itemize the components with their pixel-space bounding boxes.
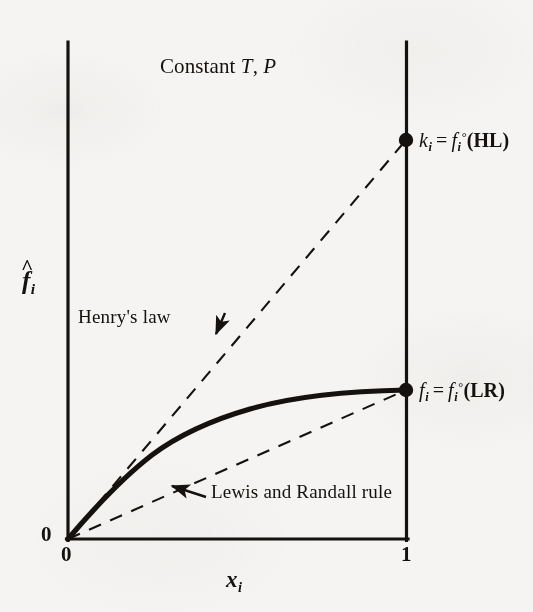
label-hl-rhs-subscript: i (458, 140, 462, 154)
chart-title: Constant T, P (160, 56, 276, 77)
circumflex-accent-icon: ^ (21, 257, 33, 278)
y-axis-tick-zero: 0 (41, 524, 52, 545)
label-hl-lhs-subscript: i (428, 140, 432, 154)
x-axis-tick-one: 1 (401, 544, 412, 565)
lewis-randall-marker-dot (399, 383, 413, 397)
label-hl-paren-text: (HL) (467, 129, 510, 151)
y-axis-label-subscript: i (31, 280, 35, 297)
label-hl-equals: = (436, 129, 447, 151)
annotation-lewis-and-randall-rule: Lewis and Randall rule (211, 482, 392, 501)
x-axis-label-symbol: x (226, 567, 238, 592)
y-axis-label: ^fi (22, 268, 35, 296)
label-lewis-randall-standard-state: fi=fi°(LR) (419, 380, 505, 403)
annotation-henrys-law: Henry's law (78, 307, 171, 326)
chart-title-separator: , (253, 54, 258, 78)
henrys-law-line (68, 140, 406, 539)
henrys-law-marker-dot (399, 133, 413, 147)
label-hl-lhs-symbol: k (419, 129, 428, 151)
label-hl-rhs-symbol: f (451, 129, 457, 151)
chart-title-lead: Constant (160, 54, 235, 78)
label-lr-rhs-symbol: f (448, 379, 454, 401)
x-axis-tick-zero: 0 (61, 544, 72, 565)
chart-title-var-P: P (263, 54, 276, 78)
x-axis-label: xi (226, 568, 242, 594)
chart-title-var-T: T (241, 54, 253, 78)
label-henrys-law-constant: ki=fi°(HL) (419, 130, 509, 153)
label-lr-paren-text: (LR) (463, 379, 505, 401)
y-axis-label-symbol: ^f (22, 268, 30, 293)
label-lr-equals: = (433, 379, 444, 401)
label-lr-lhs-subscript: i (425, 390, 429, 404)
x-axis-label-subscript: i (238, 579, 242, 595)
axis-frame (67, 42, 409, 541)
henrys-law-arrow (216, 313, 225, 334)
label-lr-lhs-symbol: f (419, 379, 425, 401)
figure-canvas: Constant T, P ^fi xi 0 0 1 Henry's law L… (0, 0, 533, 612)
